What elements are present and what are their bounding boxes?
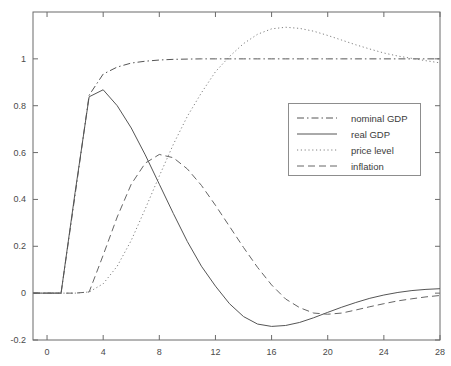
legend-line-sample-dashdot: [297, 112, 337, 124]
legend-item-label: nominal GDP: [351, 113, 408, 124]
legend-line-sample-solid: [297, 128, 337, 140]
x-axis-tick-label: 16: [252, 347, 292, 357]
y-axis-tick-label: 0.6: [0, 148, 26, 158]
chart-legend: nominal GDPreal GDPprice levelinflation: [288, 103, 421, 176]
legend-item-label: price level: [351, 145, 394, 156]
x-axis-tick-label: 8: [139, 347, 179, 357]
x-axis-tick-label: 4: [83, 347, 123, 357]
axes-frame: [33, 12, 440, 340]
y-axis-tick-label: 0.2: [0, 241, 26, 251]
y-axis-tick-label: 1: [0, 54, 26, 64]
x-axis-tick-label: 0: [27, 347, 67, 357]
legend-item-label: inflation: [351, 161, 384, 172]
chart-plot-area: [0, 0, 451, 366]
legend-item: real GDP: [289, 126, 420, 142]
x-axis-tick-label: 24: [364, 347, 404, 357]
legend-item: inflation: [289, 158, 420, 174]
y-axis-tick-label: 0.8: [0, 101, 26, 111]
legend-item: price level: [289, 142, 420, 158]
legend-line-sample-dotted: [297, 144, 337, 156]
chart-container: -0.200.20.40.60.810481216202428 nominal …: [0, 0, 451, 366]
x-axis-tick-label: 28: [420, 347, 451, 357]
legend-item-label: real GDP: [351, 129, 390, 140]
data-series-lines: [33, 27, 440, 326]
tick-marks: [33, 12, 440, 340]
y-axis-tick-label: 0: [0, 288, 26, 298]
x-axis-tick-label: 20: [308, 347, 348, 357]
legend-item: nominal GDP: [289, 110, 420, 126]
legend-line-sample-dashed: [297, 160, 337, 172]
series-line-inflation: [33, 154, 440, 314]
x-axis-tick-label: 12: [195, 347, 235, 357]
y-axis-tick-label: -0.2: [0, 335, 26, 345]
y-axis-tick-label: 0.4: [0, 194, 26, 204]
